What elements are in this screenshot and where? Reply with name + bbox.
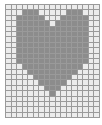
pixel-grid-heart <box>5 4 100 118</box>
grid-cell-empty[interactable] <box>94 113 100 118</box>
